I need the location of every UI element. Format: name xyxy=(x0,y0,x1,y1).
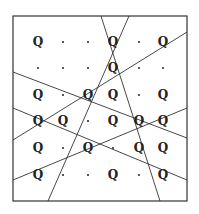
grid-q-mark: Q xyxy=(83,141,93,155)
line-arrangement-diagram: QQQQQQQQQQQQQQQQQQQQ xyxy=(0,0,199,214)
grid-dot xyxy=(62,41,64,43)
grid-q-mark: Q xyxy=(108,168,118,182)
grid-q-mark: Q xyxy=(33,88,43,102)
grid-q-mark: Q xyxy=(58,114,68,128)
grid-dot xyxy=(62,67,64,69)
grid-dot xyxy=(37,67,39,69)
grid-q-mark: Q xyxy=(134,114,144,128)
grid-dot xyxy=(62,174,64,176)
grid-q-mark: Q xyxy=(158,114,168,128)
grid-q-mark: Q xyxy=(158,141,168,155)
grid-dot xyxy=(138,174,140,176)
grid-q-mark: Q xyxy=(108,61,118,75)
grid-dot xyxy=(87,67,89,69)
grid-dot xyxy=(62,147,64,149)
grid-dot xyxy=(138,94,140,96)
grid-q-mark: Q xyxy=(158,35,168,49)
grid-dot xyxy=(138,67,140,69)
grid-q-mark: Q xyxy=(108,35,118,49)
grid-q-mark: Q xyxy=(108,114,118,128)
grid-q-mark: Q xyxy=(33,35,43,49)
grid-q-mark: Q xyxy=(108,88,118,102)
grid-dot xyxy=(87,174,89,176)
grid-points: QQQQQQQQQQQQQQQQQQQQ xyxy=(33,35,168,182)
grid-q-mark: Q xyxy=(33,141,43,155)
grid-dot xyxy=(138,41,140,43)
grid-dot xyxy=(87,41,89,43)
grid-q-mark: Q xyxy=(83,88,93,102)
grid-q-mark: Q xyxy=(33,168,43,182)
grid-q-mark: Q xyxy=(158,168,168,182)
grid-dot xyxy=(62,94,64,96)
grid-dot xyxy=(112,147,114,149)
grid-q-mark: Q xyxy=(158,88,168,102)
grid-dot xyxy=(87,120,89,122)
grid-q-mark: Q xyxy=(134,141,144,155)
grid-q-mark: Q xyxy=(33,114,43,128)
grid-dot xyxy=(162,67,164,69)
